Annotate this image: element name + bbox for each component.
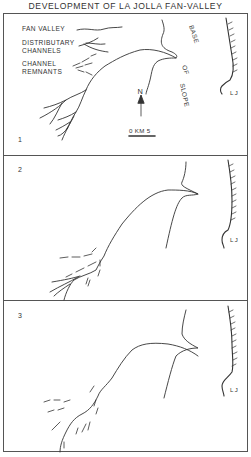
fan-valley-line [64, 190, 198, 300]
panel-2-labels: 2 L J [18, 166, 238, 243]
channel-remnants [44, 386, 98, 448]
distributary-channels [40, 90, 86, 140]
panel-3-labels: 3 L J [18, 312, 238, 393]
north-arrow-head [138, 95, 144, 103]
panel-2 [50, 160, 236, 300]
legend-fan-valley-line [77, 27, 122, 30]
panel-number-3: 3 [18, 312, 22, 319]
legend-label-distributary-1: DISTRIBUTARY [22, 39, 75, 46]
coast-label-lj: L J [230, 237, 238, 243]
coast-label-lj: L J [230, 90, 238, 96]
legend-label-remnants-1: CHANNEL [22, 60, 56, 67]
base-of-slope-line [166, 162, 198, 248]
fan-valley-line [60, 343, 198, 452]
panel-number-2: 2 [18, 166, 22, 173]
annotation-base: BASE [188, 24, 201, 44]
figure-frame [4, 14, 248, 452]
coastline [221, 18, 234, 94]
panel-1-labels: FAN VALLEY DISTRIBUTARY CHANNELS CHANNEL… [18, 24, 238, 143]
legend-remnant-dashes [73, 54, 96, 75]
annotation-slope: SLOPE [179, 83, 191, 108]
scale-label: 0 KM 5 [129, 127, 151, 134]
legend-distributary-lines [79, 38, 108, 52]
coastline [222, 306, 233, 396]
panel-number-1: 1 [18, 136, 22, 143]
base-of-slope-line [146, 20, 177, 94]
annotation-of: OF [181, 64, 191, 76]
coastline-hachures [228, 22, 237, 72]
base-of-slope-line [164, 310, 198, 398]
fan-valley-line [86, 49, 176, 90]
coast-label-lj: L J [230, 387, 238, 393]
panel-3 [44, 306, 237, 452]
coastline [222, 160, 232, 248]
figure-canvas: FAN VALLEY DISTRIBUTARY CHANNELS CHANNEL… [0, 0, 251, 457]
channel-remnants [60, 248, 100, 286]
legend-label-remnants-2: REMNANTS [22, 68, 62, 75]
panel-1 [40, 18, 237, 140]
north-label: N [138, 87, 143, 96]
legend-label-distributary-2: CHANNELS [22, 47, 61, 54]
legend-label-fan-valley: FAN VALLEY [22, 25, 65, 32]
